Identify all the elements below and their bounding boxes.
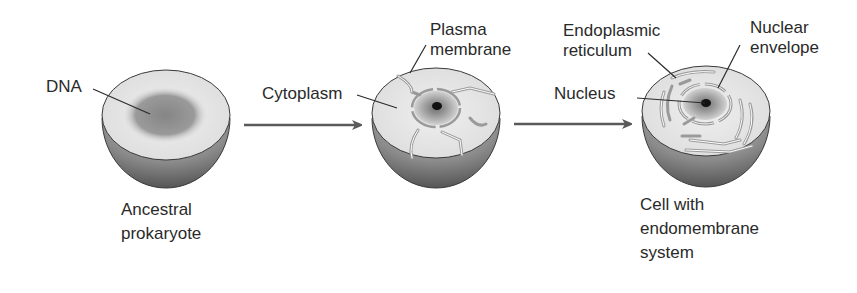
label-nuclear-envelope: Nuclear envelope — [750, 18, 819, 58]
label-line: membrane — [430, 40, 511, 60]
caption-line: Ancestral — [121, 198, 201, 222]
label-line: Plasma — [430, 20, 511, 40]
caption-line: Cell with — [640, 193, 759, 217]
nucleolus — [432, 102, 442, 110]
label-nucleus: Nucleus — [554, 84, 615, 104]
ancestral-prokaryote-cell — [102, 70, 230, 188]
label-line: Nuclear — [750, 18, 819, 38]
caption-line: prokaryote — [121, 222, 201, 246]
label-plasma-membrane: Plasma membrane — [430, 20, 511, 60]
label-line: reticulum — [563, 41, 660, 61]
label-line: Endoplasmic — [563, 21, 660, 41]
label-line: envelope — [750, 38, 819, 58]
endomembrane-evolution-diagram: DNA Ancestral prokaryote Cytoplasm Plasm… — [0, 0, 857, 293]
label-dna: DNA — [46, 77, 82, 97]
caption-line: endomembrane — [640, 217, 759, 241]
dna-region — [123, 87, 207, 143]
label-endoplasmic-reticulum: Endoplasmic reticulum — [563, 21, 660, 61]
intermediate-cell — [372, 68, 500, 188]
caption-ancestral-prokaryote: Ancestral prokaryote — [121, 198, 201, 246]
endomembrane-cell — [642, 66, 770, 187]
caption-line: system — [640, 241, 759, 265]
label-cytoplasm: Cytoplasm — [262, 84, 342, 104]
caption-cell-with-endomembrane-system: Cell with endomembrane system — [640, 193, 759, 265]
